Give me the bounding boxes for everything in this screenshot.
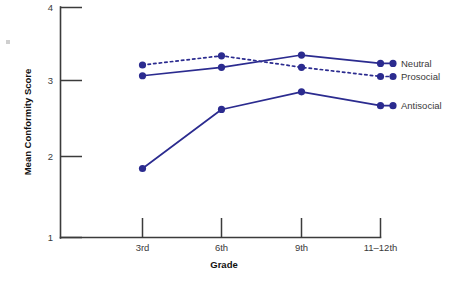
x-tick-label-9th: 9th	[295, 242, 308, 253]
legend-marker-antisocial	[389, 102, 396, 109]
x-tick-label-6th: 6th	[215, 242, 228, 253]
scan-artifact	[6, 40, 10, 44]
data-point-neutral-3rd	[139, 72, 146, 79]
data-point-prosocial-3rd	[139, 61, 146, 68]
series-layer	[139, 51, 384, 172]
legend-label-prosocial: Prosocial	[401, 71, 440, 82]
x-axis-title: Grade	[210, 259, 237, 270]
line-chart: 4 3 2 1 3rd 6th 9th 11–12th Grade Mean C…	[0, 0, 453, 283]
data-point-antisocial-9th	[298, 88, 305, 95]
legend-layer: NeutralProsocialAntisocial	[381, 58, 442, 111]
legend-marker-prosocial	[389, 73, 396, 80]
data-point-antisocial-6th	[218, 106, 225, 113]
legend-label-antisocial: Antisocial	[401, 100, 442, 111]
y-tick-label-2: 2	[48, 151, 53, 162]
legend-marker-neutral	[389, 60, 396, 67]
y-axis-title: Mean Conformity Score	[22, 69, 33, 176]
y-tick-label-4: 4	[48, 2, 53, 13]
y-tick-label-1: 1	[48, 232, 53, 243]
legend-label-neutral: Neutral	[401, 58, 432, 69]
data-point-neutral-6th	[218, 64, 225, 71]
x-tick-label-11-12th: 11–12th	[364, 242, 398, 253]
y-tick-label-3: 3	[48, 75, 53, 86]
series-line-antisocial	[143, 92, 381, 169]
data-point-antisocial-3rd	[139, 165, 146, 172]
x-tick-label-3rd: 3rd	[136, 242, 150, 253]
data-point-prosocial-9th	[298, 64, 305, 71]
data-point-neutral-9th	[298, 51, 305, 58]
data-point-prosocial-6th	[218, 52, 225, 59]
chart-page: 4 3 2 1 3rd 6th 9th 11–12th Grade Mean C…	[0, 0, 453, 283]
